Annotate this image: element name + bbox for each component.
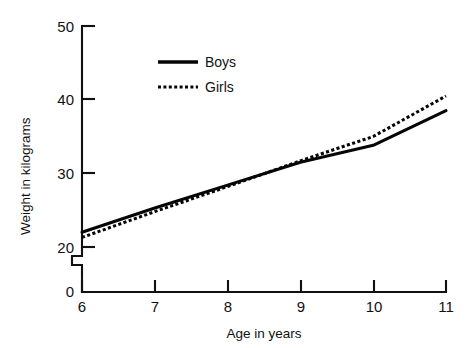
legend-label-boys: Boys bbox=[205, 54, 236, 70]
x-tick-label-7: 7 bbox=[151, 298, 159, 315]
legend: Boys Girls bbox=[158, 54, 236, 95]
x-tick-label-9: 9 bbox=[297, 298, 305, 315]
x-tick-label-8: 8 bbox=[224, 298, 232, 315]
y-axis-title: Weight in kilograms bbox=[18, 117, 33, 235]
y-tick-label-20: 20 bbox=[57, 239, 74, 256]
y-tick-label-30: 30 bbox=[57, 165, 74, 182]
y-tick-label-50: 50 bbox=[57, 18, 74, 35]
y-tick-label-40: 40 bbox=[57, 91, 74, 108]
legend-label-girls: Girls bbox=[205, 79, 234, 95]
chart-container: 50 40 30 20 0 Weight in kilograms 6 7 8 … bbox=[0, 0, 472, 348]
x-axis: 6 7 8 9 10 11 Age in years bbox=[78, 280, 454, 341]
series-line-boys bbox=[82, 111, 446, 233]
y-axis: 50 40 30 20 0 Weight in kilograms bbox=[18, 18, 95, 300]
x-axis-title: Age in years bbox=[226, 326, 301, 341]
x-tick-label-11: 11 bbox=[438, 298, 454, 315]
series-line-girls bbox=[82, 96, 446, 237]
y-tick-label-0: 0 bbox=[66, 283, 74, 300]
line-chart: 50 40 30 20 0 Weight in kilograms 6 7 8 … bbox=[0, 0, 472, 348]
x-tick-label-6: 6 bbox=[78, 298, 86, 315]
x-tick-label-10: 10 bbox=[366, 298, 383, 315]
data-series-group bbox=[82, 96, 446, 237]
